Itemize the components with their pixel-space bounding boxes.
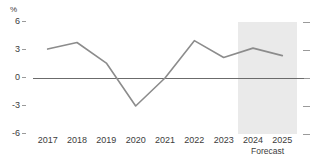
y-axis-tick-label: 3 (4, 45, 26, 54)
line-chart: % 630-3-6 201720182019202020212022202320… (0, 0, 315, 158)
y-axis-tick-label: -3 (4, 101, 26, 110)
y-axis-tick-mark (22, 133, 26, 134)
right-axis-tick-mark (303, 22, 310, 23)
series-line-group (33, 22, 297, 134)
right-axis-tick-mark (303, 78, 310, 79)
y-axis-unit-label: % (10, 5, 17, 15)
y-axis-tick-label: 6 (4, 17, 26, 26)
y-axis-tick-mark (22, 21, 26, 22)
y-axis-tick-mark (22, 49, 26, 50)
y-axis-tick-label: -6 (4, 129, 26, 138)
plot-area (33, 22, 297, 134)
series-line (48, 41, 283, 106)
forecast-caption: Forecast (233, 146, 303, 156)
right-axis-tick-mark (303, 134, 310, 135)
y-axis-tick-mark (22, 105, 26, 106)
right-axis-tick-mark (303, 50, 310, 51)
x-axis-tick-label: 2025 (265, 135, 299, 145)
y-axis-tick-label: 0 (4, 73, 26, 82)
y-axis-tick-mark (22, 77, 26, 78)
right-axis-tick-mark (303, 106, 310, 107)
